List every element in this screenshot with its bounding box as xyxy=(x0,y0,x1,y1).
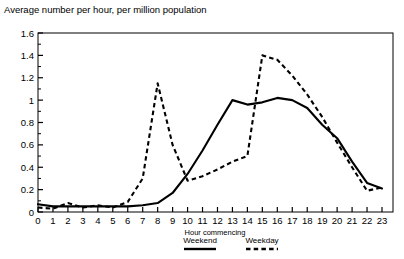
x-tick-label: 23 xyxy=(377,215,388,226)
chart-plot-area: 00.20.40.60.811.21.41.6 0123456789101112… xyxy=(0,0,404,259)
x-tick-label: 18 xyxy=(302,215,313,226)
x-tick-label: 10 xyxy=(182,215,193,226)
x-axis-ticks xyxy=(38,207,382,212)
x-tick-label: 7 xyxy=(140,215,145,226)
x-tick-label: 21 xyxy=(347,215,358,226)
x-tick-label: 4 xyxy=(95,215,100,226)
x-tick-label: 12 xyxy=(212,215,223,226)
x-tick-label: 20 xyxy=(332,215,343,226)
y-tick-label: 1.4 xyxy=(21,50,34,61)
x-tick-label: 11 xyxy=(198,215,208,226)
x-tick-label: 15 xyxy=(257,215,268,226)
y-tick-label: 0.8 xyxy=(21,117,34,128)
x-tick-label: 22 xyxy=(362,215,373,226)
x-tick-label: 8 xyxy=(155,215,160,226)
legend-label: Weekend xyxy=(183,236,217,245)
y-tick-label: 1.2 xyxy=(21,72,34,83)
x-tick-label: 9 xyxy=(170,215,175,226)
x-tick-label: 3 xyxy=(80,215,85,226)
chart-svg: 00.20.40.60.811.21.41.6 0123456789101112… xyxy=(0,0,404,259)
y-axis-major-ticks xyxy=(38,33,43,212)
y-tick-label: 0 xyxy=(29,207,34,218)
x-tick-label: 1 xyxy=(50,215,55,226)
x-tick-label: 2 xyxy=(65,215,70,226)
y-tick-label: 1.6 xyxy=(21,28,34,39)
x-tick-label: 19 xyxy=(317,215,328,226)
x-tick-label: 13 xyxy=(227,215,238,226)
y-tick-label: 0.2 xyxy=(21,184,34,195)
x-tick-label: 16 xyxy=(272,215,283,226)
legend-label: Weekday xyxy=(245,236,278,245)
x-tick-label: 6 xyxy=(125,215,130,226)
x-tick-label: 17 xyxy=(287,215,298,226)
chart-legend: WeekendWeekday xyxy=(183,236,278,249)
y-axis-tick-labels: 00.20.40.60.811.21.41.6 xyxy=(21,28,34,218)
x-tick-label: 0 xyxy=(35,215,40,226)
x-tick-label: 14 xyxy=(242,215,253,226)
x-tick-label: 5 xyxy=(110,215,115,226)
plot-frame xyxy=(38,33,393,212)
y-tick-label: 0.4 xyxy=(21,162,34,173)
y-tick-label: 1 xyxy=(29,95,34,106)
x-axis-tick-labels: 01234567891011121314151617181920212223 xyxy=(35,215,387,226)
series-line-weekend xyxy=(38,98,382,207)
y-tick-label: 0.6 xyxy=(21,139,34,150)
